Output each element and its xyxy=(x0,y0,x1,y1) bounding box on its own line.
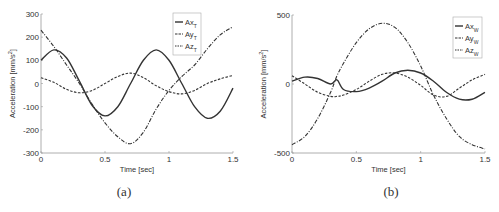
series-line-AzT xyxy=(41,73,233,94)
x-tick-label: 1 xyxy=(167,155,172,164)
x-axis-label: Time [sec] xyxy=(120,165,154,174)
chart-b: 5000-50000.511.5Time [sec]Acceleration [… xyxy=(258,11,491,199)
y-tick-label: -200 xyxy=(23,126,40,135)
y-tick-label: 0 xyxy=(35,80,40,89)
x-tick-label: 0 xyxy=(290,155,295,164)
y-tick-label: 100 xyxy=(26,56,40,65)
y-axis-label: Acceleration [mm/s2] xyxy=(7,49,17,118)
x-tick-label: 0.5 xyxy=(99,155,111,164)
legend: AxWAyWAzW xyxy=(453,17,482,58)
y-tick-label: 300 xyxy=(26,10,40,19)
chart-a: 3002001000-100-200-30000.511.5Time [sec]… xyxy=(7,10,239,199)
y-tick-label: -500 xyxy=(274,149,291,158)
chart-caption: (b) xyxy=(383,184,398,199)
y-tick-label: -100 xyxy=(23,103,40,112)
legend: AxTAyTAzT xyxy=(173,13,201,55)
x-tick-label: 0 xyxy=(39,155,44,164)
x-axis-label: Time [sec] xyxy=(371,165,405,174)
chart-caption: (a) xyxy=(117,184,131,199)
y-axis-label: Acceleration [mm/s2] xyxy=(258,50,268,119)
x-tick-label: 1 xyxy=(418,155,423,164)
y-tick-label: -300 xyxy=(23,149,40,158)
y-tick-label: 0 xyxy=(286,80,291,89)
x-tick-label: 1.5 xyxy=(479,155,491,164)
y-tick-label: 500 xyxy=(277,11,291,20)
x-tick-label: 0.5 xyxy=(351,155,363,164)
y-tick-label: 200 xyxy=(26,33,40,42)
series-line-AxT xyxy=(41,50,233,119)
x-tick-label: 1.5 xyxy=(227,155,239,164)
figure: 3002001000-100-200-30000.511.5Time [sec]… xyxy=(0,0,499,212)
series-line-AxW xyxy=(292,70,485,100)
